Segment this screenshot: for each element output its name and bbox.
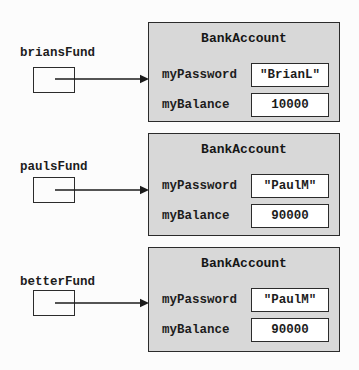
reference-arrow-icon	[55, 184, 149, 196]
field-row-mypassword: myPassword "PaulM"	[149, 288, 339, 312]
reference-arrow-icon	[55, 297, 149, 309]
field-name-label: myBalance	[162, 323, 230, 337]
bank-account-object: BankAccount myPassword "BrianL" myBalanc…	[148, 22, 340, 122]
reference-arrow-icon	[55, 73, 149, 85]
field-value-box: 90000	[251, 204, 329, 228]
field-value-box: "PaulM"	[251, 288, 329, 312]
field-row-mypassword: myPassword "PaulM"	[149, 174, 339, 198]
field-value-box: 10000	[251, 93, 329, 117]
variable-name-label: briansFund	[20, 46, 95, 60]
field-row-mybalance: myBalance 90000	[149, 204, 339, 228]
field-value-box: "BrianL"	[251, 63, 329, 87]
field-name-label: myPassword	[162, 179, 237, 193]
variable-name-label: paulsFund	[20, 160, 88, 174]
object-reference-diagram: briansFund BankAccount myPassword "Brian…	[0, 0, 359, 370]
variable-name-label: betterFund	[20, 275, 95, 289]
field-name-label: myPassword	[162, 68, 237, 82]
bank-account-object: BankAccount myPassword "PaulM" myBalance…	[148, 247, 340, 352]
field-name-label: myBalance	[162, 209, 230, 223]
field-name-label: myPassword	[162, 293, 237, 307]
field-row-mypassword: myPassword "BrianL"	[149, 63, 339, 87]
class-name-title: BankAccount	[149, 142, 339, 157]
class-name-title: BankAccount	[149, 256, 339, 271]
field-value-box: 90000	[251, 318, 329, 342]
class-name-title: BankAccount	[149, 31, 339, 46]
field-row-mybalance: myBalance 90000	[149, 318, 339, 342]
bank-account-object: BankAccount myPassword "PaulM" myBalance…	[148, 133, 340, 236]
field-value-box: "PaulM"	[251, 174, 329, 198]
field-row-mybalance: myBalance 10000	[149, 93, 339, 117]
field-name-label: myBalance	[162, 98, 230, 112]
